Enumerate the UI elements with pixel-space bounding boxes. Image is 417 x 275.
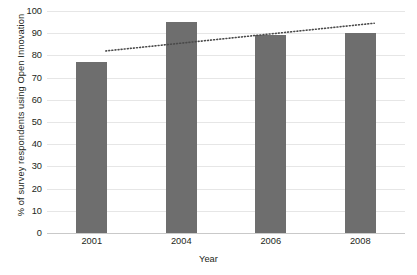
x-tick-label: 2001 xyxy=(62,236,122,246)
bar-chart: % of survey respondents using Open Innov… xyxy=(0,0,417,275)
x-tick-label: 2004 xyxy=(151,236,211,246)
y-tick-label: 90 xyxy=(16,28,42,38)
trendline xyxy=(106,23,375,51)
y-tick-label: 80 xyxy=(16,50,42,60)
y-tick-label: 10 xyxy=(16,206,42,216)
y-tick-label: 100 xyxy=(16,6,42,16)
x-tick-label: 2006 xyxy=(241,236,301,246)
y-tick-label: 50 xyxy=(16,117,42,127)
y-tick-label: 70 xyxy=(16,73,42,83)
y-tick-label: 0 xyxy=(16,228,42,238)
trendline-svg xyxy=(47,11,405,233)
y-axis-tick-labels: 0102030405060708090100 xyxy=(12,0,42,275)
x-tick-label: 2008 xyxy=(330,236,390,246)
y-tick-label: 60 xyxy=(16,95,42,105)
y-tick-label: 20 xyxy=(16,184,42,194)
gridline xyxy=(47,233,405,234)
x-axis-title: Year xyxy=(0,254,417,264)
y-tick-label: 30 xyxy=(16,161,42,171)
plot-area xyxy=(47,11,405,233)
x-axis-tick-labels: 2001200420062008 xyxy=(47,236,405,252)
y-tick-label: 40 xyxy=(16,139,42,149)
